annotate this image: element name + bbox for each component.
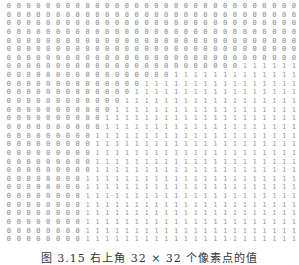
pixel-value: 1 xyxy=(83,201,93,210)
pixel-value: 0 xyxy=(14,201,24,210)
pixel-value: 1 xyxy=(142,80,152,89)
pixel-value: 0 xyxy=(43,183,53,192)
pixel-value: 0 xyxy=(260,45,270,54)
pixel-value: 0 xyxy=(73,209,83,218)
pixel-value: 1 xyxy=(210,166,220,175)
pixel-value: 1 xyxy=(171,71,181,80)
pixel-value: 0 xyxy=(4,123,14,132)
pixel-value: 1 xyxy=(279,235,289,244)
pixel-value: 0 xyxy=(210,45,220,54)
pixel-value: 0 xyxy=(132,19,142,28)
pixel-value: 1 xyxy=(92,227,102,236)
pixel-value: 1 xyxy=(279,62,289,71)
pixel-value: 0 xyxy=(24,2,34,11)
pixel-value: 1 xyxy=(92,183,102,192)
pixel-value: 0 xyxy=(14,71,24,80)
pixel-value: 0 xyxy=(33,166,43,175)
pixel-value: 1 xyxy=(250,183,260,192)
pixel-value: 0 xyxy=(43,19,53,28)
pixel-value: 1 xyxy=(181,123,191,132)
pixel-value: 1 xyxy=(161,132,171,141)
pixel-value: 0 xyxy=(151,2,161,11)
pixel-value: 0 xyxy=(24,183,34,192)
pixel-value: 0 xyxy=(73,192,83,201)
pixel-value: 0 xyxy=(73,88,83,97)
pixel-value: 0 xyxy=(33,158,43,167)
pixel-value: 1 xyxy=(289,192,299,201)
pixel-value: 0 xyxy=(63,140,73,149)
pixel-value: 0 xyxy=(33,192,43,201)
pixel-value: 0 xyxy=(161,11,171,20)
pixel-value: 1 xyxy=(132,201,142,210)
pixel-value: 0 xyxy=(289,19,299,28)
pixel-value: 0 xyxy=(53,209,63,218)
pixel-value: 1 xyxy=(142,88,152,97)
pixel-value: 0 xyxy=(24,114,34,123)
grid-row: 000000001111111111111111111111 xyxy=(4,201,299,210)
pixel-value: 0 xyxy=(210,19,220,28)
pixel-value: 0 xyxy=(53,201,63,210)
pixel-value: 0 xyxy=(14,123,24,132)
pixel-value: 1 xyxy=(181,218,191,227)
pixel-value: 1 xyxy=(210,201,220,210)
pixel-value: 0 xyxy=(24,28,34,37)
pixel-value: 0 xyxy=(33,11,43,20)
pixel-value: 0 xyxy=(43,192,53,201)
pixel-value: 0 xyxy=(92,71,102,80)
pixel-value: 1 xyxy=(201,114,211,123)
pixel-value: 0 xyxy=(112,97,122,106)
pixel-value: 0 xyxy=(53,11,63,20)
pixel-value: 1 xyxy=(142,201,152,210)
pixel-value: 0 xyxy=(161,19,171,28)
pixel-value: 0 xyxy=(83,114,93,123)
pixel-value: 0 xyxy=(250,19,260,28)
pixel-value: 1 xyxy=(289,62,299,71)
pixel-value: 1 xyxy=(269,183,279,192)
pixel-value: 0 xyxy=(83,158,93,167)
pixel-value: 0 xyxy=(73,235,83,244)
pixel-value: 1 xyxy=(201,132,211,141)
pixel-value: 0 xyxy=(63,106,73,115)
pixel-value: 0 xyxy=(33,149,43,158)
pixel-value: 1 xyxy=(122,235,132,244)
pixel-value: 1 xyxy=(112,166,122,175)
pixel-value: 0 xyxy=(53,2,63,11)
pixel-value: 0 xyxy=(24,201,34,210)
pixel-value: 0 xyxy=(240,45,250,54)
pixel-value: 0 xyxy=(260,54,270,63)
pixel-value: 0 xyxy=(73,62,83,71)
pixel-value: 0 xyxy=(83,2,93,11)
pixel-value: 1 xyxy=(230,88,240,97)
pixel-value: 0 xyxy=(210,11,220,20)
pixel-value: 0 xyxy=(73,218,83,227)
pixel-value: 0 xyxy=(73,149,83,158)
pixel-value: 1 xyxy=(142,183,152,192)
pixel-value: 0 xyxy=(63,192,73,201)
pixel-value: 0 xyxy=(4,80,14,89)
pixel-value: 0 xyxy=(53,149,63,158)
pixel-value: 0 xyxy=(43,235,53,244)
pixel-value: 1 xyxy=(260,175,270,184)
pixel-value: 0 xyxy=(151,28,161,37)
pixel-value: 0 xyxy=(171,62,181,71)
pixel-value: 0 xyxy=(230,54,240,63)
pixel-value: 1 xyxy=(112,209,122,218)
pixel-value: 0 xyxy=(112,2,122,11)
pixel-value: 0 xyxy=(92,54,102,63)
pixel-value: 0 xyxy=(43,37,53,46)
pixel-value: 1 xyxy=(250,235,260,244)
pixel-value: 1 xyxy=(220,201,230,210)
pixel-value: 0 xyxy=(230,2,240,11)
pixel-value: 0 xyxy=(171,19,181,28)
pixel-value: 0 xyxy=(4,132,14,141)
pixel-value: 0 xyxy=(92,45,102,54)
pixel-value: 1 xyxy=(220,183,230,192)
pixel-value: 0 xyxy=(83,28,93,37)
pixel-value: 1 xyxy=(132,166,142,175)
pixel-value: 1 xyxy=(102,209,112,218)
pixel-value: 0 xyxy=(63,28,73,37)
pixel-value: 0 xyxy=(73,28,83,37)
pixel-value: 0 xyxy=(220,2,230,11)
pixel-value: 1 xyxy=(250,227,260,236)
pixel-value: 1 xyxy=(210,106,220,115)
